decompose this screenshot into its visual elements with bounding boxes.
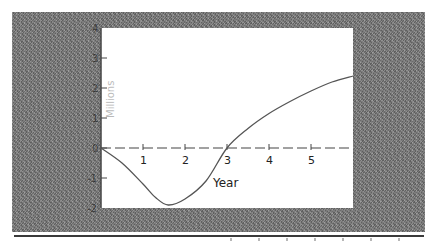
chart-canvas: 12345 -2-101234 Year Millions xyxy=(0,0,432,243)
y-tick-label: -2 xyxy=(87,203,97,214)
y-tick-label: 1 xyxy=(92,113,98,124)
x-tick-label: 3 xyxy=(224,154,231,167)
bottom-rule xyxy=(14,235,424,237)
y-tick-label: 2 xyxy=(92,83,98,94)
y-tick-label: 0 xyxy=(92,143,98,154)
y-axis-label: Millions xyxy=(105,81,116,118)
x-axis-label: Year xyxy=(212,176,238,190)
x-tick-label: 1 xyxy=(140,154,147,167)
x-tick-label: 4 xyxy=(266,154,273,167)
caption-fragment xyxy=(230,238,420,241)
x-tick-label: 2 xyxy=(182,154,189,167)
x-tick-label: 5 xyxy=(308,154,315,167)
y-tick-label: 3 xyxy=(92,53,98,64)
y-tick-label: -1 xyxy=(87,173,97,184)
y-tick-label: 4 xyxy=(92,23,98,34)
